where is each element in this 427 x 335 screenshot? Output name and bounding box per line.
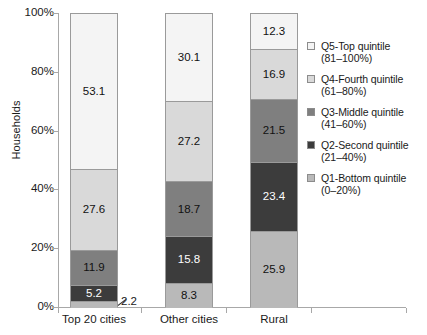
bar-segment-q5: 30.1 — [166, 14, 212, 102]
bar-segment-q2: 23.4 — [251, 163, 297, 232]
legend-label: Q1-Bottom quintile — [321, 172, 427, 184]
legend-label: Q5-Top quintile — [321, 40, 427, 52]
segment-value-label: 15.8 — [178, 254, 200, 266]
legend-swatch-icon — [307, 42, 315, 50]
segment-value-label: 27.2 — [178, 136, 200, 148]
bar-segment-q5: 53.1 — [71, 14, 117, 170]
segment-value-label: 53.1 — [83, 86, 105, 98]
x-axis-category-label: Rural — [214, 313, 334, 325]
legend-label: Q2-Second quintile — [321, 139, 427, 151]
legend-range: (81–100%) — [321, 52, 427, 64]
bar-segment-q3: 18.7 — [166, 182, 212, 237]
legend-range: (21–40%) — [321, 151, 427, 163]
x-axis-tick-mark — [311, 308, 312, 313]
legend-item[interactable]: Q5-Top quintile(81–100%) — [307, 40, 427, 64]
bar-rural: 12.316.921.523.425.9 — [250, 13, 298, 307]
legend-range: (61–80%) — [321, 85, 427, 97]
y-axis-tick-mark — [53, 72, 58, 73]
bar-other-cities: 30.127.218.715.88.3 — [165, 13, 213, 307]
segment-value-label: 18.7 — [178, 204, 200, 216]
legend-swatch-icon — [307, 141, 315, 149]
legend-label: Q4-Fourth quintile — [321, 73, 427, 85]
legend-swatch-icon — [307, 75, 315, 83]
x-axis-tick-mark — [58, 308, 59, 313]
callout-label-2-2: 2.2 — [121, 295, 137, 307]
bar-segment-q3: 21.5 — [251, 100, 297, 163]
segment-value-label: 16.9 — [263, 69, 285, 81]
legend: Q5-Top quintile(81–100%)Q4-Fourth quinti… — [307, 40, 427, 205]
bar-segment-q1: 2.2 — [71, 302, 117, 308]
bar-segment-q4: 27.2 — [166, 102, 212, 182]
legend-swatch-icon — [307, 174, 315, 182]
segment-value-label: 25.9 — [263, 264, 285, 276]
bar-segment-q1: 8.3 — [166, 284, 212, 308]
bar-segment-q4: 27.6 — [71, 170, 117, 251]
legend-item[interactable]: Q2-Second quintile(21–40%) — [307, 139, 427, 163]
legend-range: (41–60%) — [321, 118, 427, 130]
y-axis-tick-mark — [53, 248, 58, 249]
bar-top-20-cities: 53.127.611.95.22.2 — [70, 13, 118, 307]
bar-segment-q1: 25.9 — [251, 232, 297, 308]
bar-segment-q2: 15.8 — [166, 237, 212, 283]
y-axis-tick-mark — [53, 189, 58, 190]
segment-value-label: 11.9 — [83, 262, 105, 274]
legend-range: (0–20%) — [321, 184, 427, 196]
segment-value-label: 23.4 — [263, 191, 285, 203]
y-axis-tick-mark — [53, 13, 58, 14]
segment-value-label: 5.2 — [86, 288, 102, 300]
legend-item[interactable]: Q4-Fourth quintile(61–80%) — [307, 73, 427, 97]
x-axis-tick-mark — [141, 308, 142, 313]
legend-label: Q3-Middle quintile — [321, 106, 427, 118]
x-axis-tick-mark — [406, 308, 407, 313]
bar-segment-q5: 12.3 — [251, 14, 297, 50]
x-axis-tick-mark — [226, 308, 227, 313]
segment-value-label: 30.1 — [178, 52, 200, 64]
stacked-bar-chart: Households 100%80%60%40%20%0% 53.127.611… — [0, 0, 427, 335]
bar-segment-q2: 5.2 — [71, 286, 117, 301]
bar-segment-q3: 11.9 — [71, 251, 117, 286]
segment-value-label: 8.3 — [181, 290, 197, 302]
legend-item[interactable]: Q1-Bottom quintile(0–20%) — [307, 172, 427, 196]
legend-swatch-icon — [307, 108, 315, 116]
legend-item[interactable]: Q3-Middle quintile(41–60%) — [307, 106, 427, 130]
segment-value-label: 12.3 — [263, 26, 285, 38]
segment-value-label: 27.6 — [83, 204, 105, 216]
y-axis-tick-mark — [53, 131, 58, 132]
bar-segment-q4: 16.9 — [251, 50, 297, 100]
segment-value-label: 21.5 — [263, 125, 285, 137]
